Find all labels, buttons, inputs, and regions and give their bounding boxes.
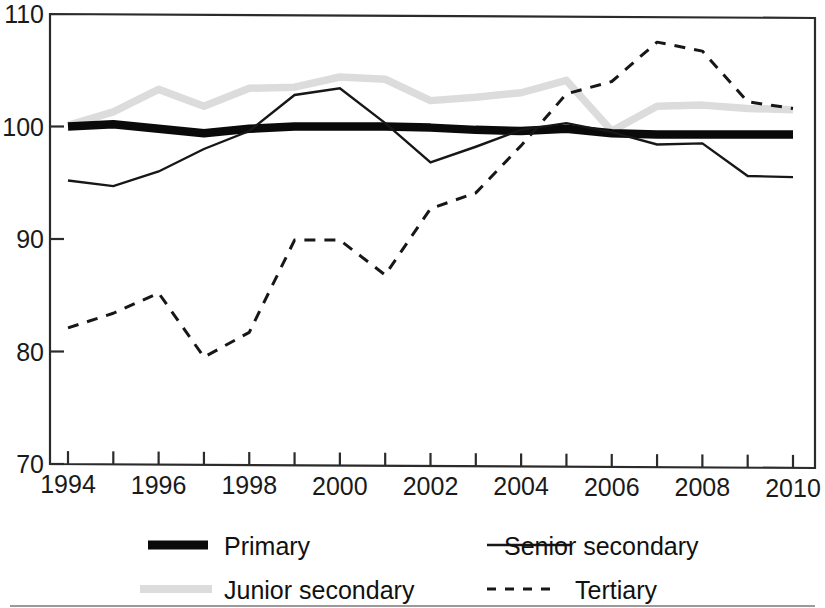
x-tick-label-2006: 2006	[584, 473, 640, 501]
x-tick-label-2004: 2004	[493, 472, 549, 500]
x-tick-label-1996: 1996	[131, 471, 187, 499]
series-line-junior-secondary	[68, 77, 793, 131]
y-axis-ticks	[50, 127, 64, 465]
y-axis-tick-labels: 708090100110	[2, 0, 44, 478]
x-tick-label-2002: 2002	[403, 472, 459, 500]
x-tick-label-2010: 2010	[765, 474, 821, 502]
y-tick-label-110: 110	[4, 0, 44, 28]
chart-legend: Primary Senior secondary Junior secondar…	[140, 532, 699, 604]
x-tick-label-1998: 1998	[221, 471, 277, 499]
legend-label-senior-secondary: Senior secondary	[504, 532, 699, 560]
y-tick-label-80: 80	[16, 338, 44, 366]
x-tick-label-2000: 2000	[312, 472, 368, 500]
x-tick-label-1994: 1994	[40, 470, 96, 498]
legend-label-tertiary: Tertiary	[575, 576, 657, 604]
x-axis-tick-labels: 199419961998200020022004200620082010	[40, 470, 821, 502]
y-tick-label-90: 90	[16, 225, 44, 253]
series-line-tertiary	[68, 42, 793, 357]
x-tick-label-2008: 2008	[675, 473, 731, 501]
plot-frame	[50, 14, 815, 468]
legend-label-primary: Primary	[224, 532, 311, 560]
y-tick-label-100: 100	[2, 113, 44, 141]
series-line-primary	[68, 124, 793, 134]
chart-canvas: 708090100110 199419961998200020022004200…	[0, 0, 825, 608]
line-chart-figure: 708090100110 199419961998200020022004200…	[0, 0, 825, 608]
legend-label-junior-secondary: Junior secondary	[224, 576, 415, 604]
